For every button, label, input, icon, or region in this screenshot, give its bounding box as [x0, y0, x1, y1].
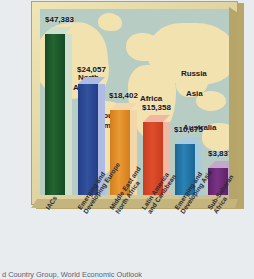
source-caption: d Country Group, World Economic Outlook: [2, 270, 252, 279]
value-label-iacs: $47,383: [45, 15, 74, 24]
value-label-sub-saharan-africa: $3,837: [208, 149, 229, 158]
bar-top-middle-east-north-africa: [110, 103, 137, 110]
bar-top-emerging-europe: [78, 77, 105, 84]
chart-figure: North America Sou Am Africa Russia Asia …: [0, 0, 254, 279]
bar-group-iacs[interactable]: [45, 27, 65, 195]
value-label-emerging-europe: $24,057: [77, 65, 106, 74]
bar-top-iacs: [45, 27, 72, 34]
value-label-latin-america-caribbean: $15,358: [142, 103, 171, 112]
bar-top-emerging-asia: [175, 137, 202, 144]
value-label-emerging-asia: $10,675: [174, 125, 203, 134]
bar-top-sub-saharan-africa: [208, 161, 229, 168]
bar-front-iacs: [45, 34, 65, 195]
bar-top-latin-america-caribbean: [143, 115, 170, 122]
category-axis: IACs Emerging and Developing Europe Midd…: [0, 205, 254, 265]
value-label-middle-east-north-africa: $18,402: [109, 91, 138, 100]
bar-side-iacs: [65, 34, 72, 195]
